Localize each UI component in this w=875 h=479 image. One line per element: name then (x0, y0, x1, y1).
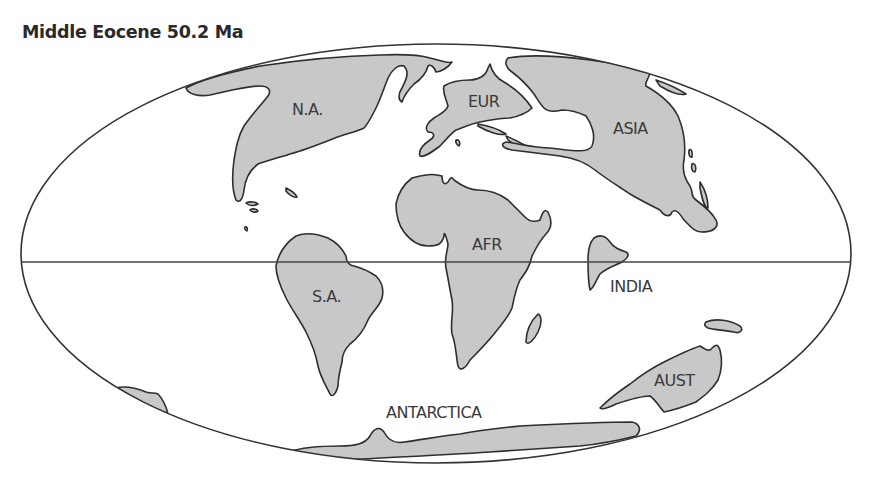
map-clip-group: N.A. EUR ASIA AFR S.A. INDIA AUST ANTARC… (21, 44, 851, 463)
landmass-antarctica (287, 422, 640, 460)
island-caribbean-3 (250, 209, 258, 212)
landmass-asia (503, 56, 717, 232)
island-caribbean-4 (245, 227, 248, 231)
island-japan-2 (692, 164, 696, 172)
label-north-america: N.A. (292, 100, 323, 119)
label-australia: AUST (654, 371, 695, 390)
island-madagascar (526, 314, 541, 343)
label-africa: AFR (472, 235, 502, 254)
landmass-south-america (276, 234, 383, 396)
island-caribbean-2 (246, 202, 258, 205)
island-asia-ne (656, 80, 686, 95)
island-europe-1 (478, 124, 506, 135)
world-map: N.A. EUR ASIA AFR S.A. INDIA AUST ANTARC… (0, 0, 875, 479)
island-caribbean-1 (286, 188, 297, 197)
label-asia: ASIA (613, 119, 648, 138)
label-antarctica: ANTARCTICA (386, 403, 482, 422)
island-new-guinea (705, 320, 742, 333)
label-india: INDIA (610, 277, 653, 296)
island-europe-3 (456, 140, 460, 146)
island-japan-1 (689, 149, 693, 157)
label-south-america: S.A. (312, 287, 341, 306)
label-europe: EUR (468, 92, 500, 111)
